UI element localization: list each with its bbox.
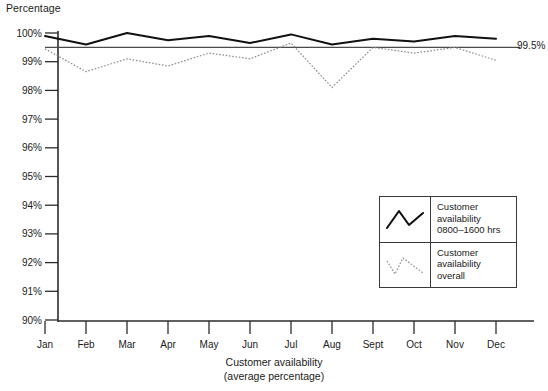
y-tick-label: 90%	[22, 315, 42, 326]
y-tick-label: 94%	[22, 200, 42, 211]
legend-swatch-solid	[380, 197, 431, 242]
x-tick-label: Sept	[363, 339, 384, 350]
x-axis-title-line2: (average percentage)	[0, 369, 548, 383]
legend-item-0800-1600: Customer availability 0800–1600 hrs	[380, 197, 516, 242]
x-axis-category-labels: JanFebMarAprMayJunJulAugSeptOctNovDec	[37, 339, 505, 350]
x-tick-label: Apr	[160, 339, 176, 350]
x-tick-label: May	[200, 339, 219, 350]
legend-label-line3: overall	[437, 270, 516, 282]
y-tick-label: 98%	[22, 85, 42, 96]
y-tick-label: 100%	[16, 28, 42, 39]
x-tick-label: Oct	[406, 339, 422, 350]
y-tick-label: 95%	[22, 171, 42, 182]
legend-label-0800-1600: Customer availability 0800–1600 hrs	[431, 197, 516, 242]
series-line-0800-1600	[45, 33, 496, 45]
y-tick-label: 93%	[22, 228, 42, 239]
legend-item-overall: Customer availability overall	[380, 242, 516, 288]
y-tick-label: 97%	[22, 114, 42, 125]
chart-legend: Customer availability 0800–1600 hrs Cust…	[379, 196, 517, 288]
reference-line-label: 99.5%	[517, 40, 545, 51]
solid-peak-icon	[383, 206, 427, 232]
legend-label-line2: availability	[437, 258, 516, 270]
legend-label-overall: Customer availability overall	[431, 243, 516, 288]
x-tick-label: Nov	[446, 339, 464, 350]
y-tick-label: 92%	[22, 257, 42, 268]
dotted-peak-icon	[383, 252, 427, 278]
x-tick-label: Mar	[118, 339, 136, 350]
x-tick-label: Jun	[242, 339, 258, 350]
legend-label-line3: 0800–1600 hrs	[437, 224, 516, 236]
x-tick-label: Jul	[285, 339, 298, 350]
legend-swatch-dotted	[380, 243, 431, 288]
x-axis-title: Customer availability (average percentag…	[0, 355, 548, 383]
legend-label-line1: Customer	[437, 247, 516, 259]
legend-label-line1: Customer	[437, 201, 516, 213]
series-line-overall	[45, 43, 496, 88]
x-tick-label: Feb	[77, 339, 95, 350]
legend-label-line2: availability	[437, 213, 516, 225]
x-axis-title-line1: Customer availability	[0, 355, 548, 369]
x-tick-label: Aug	[323, 339, 341, 350]
y-axis-ticks: 100%99%98%97%96%95%94%93%92%91%90%	[16, 28, 58, 326]
y-tick-label: 96%	[22, 142, 42, 153]
x-axis-ticks	[45, 321, 496, 334]
x-tick-label: Dec	[487, 339, 505, 350]
y-tick-label: 99%	[22, 56, 42, 67]
y-tick-label: 91%	[22, 286, 42, 297]
x-tick-label: Jan	[37, 339, 53, 350]
chart-container: Percentage 100%99%98%97%96%95%94%93%92%9…	[0, 0, 548, 391]
